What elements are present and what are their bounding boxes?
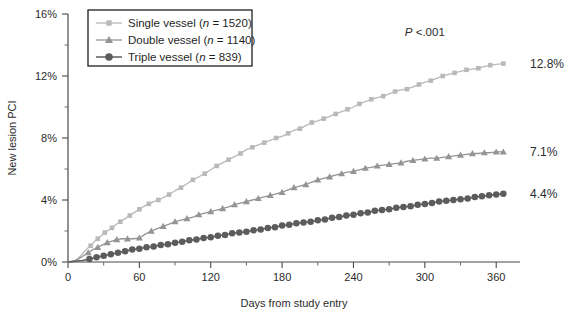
data-point-marker bbox=[88, 243, 93, 248]
data-point-marker bbox=[214, 164, 219, 169]
x-tick-label: 0 bbox=[65, 271, 71, 283]
data-point-marker bbox=[238, 151, 243, 156]
series-line bbox=[68, 152, 503, 262]
data-point-marker bbox=[381, 94, 386, 99]
y-axis-title: New lesion PCI bbox=[6, 100, 18, 175]
data-point-marker bbox=[118, 219, 123, 224]
data-point-marker bbox=[343, 212, 350, 219]
endpoint-label-triple-vessel: 4.4% bbox=[530, 187, 558, 201]
chart-canvas: 0601201802403003600%4%8%12%16%Days from … bbox=[0, 0, 570, 314]
chart-figure: 0601201802403003600%4%8%12%16%Days from … bbox=[0, 0, 570, 314]
data-point-marker bbox=[122, 248, 128, 255]
series-triple-vessel bbox=[68, 191, 507, 263]
data-point-marker bbox=[136, 246, 143, 253]
legend-label-main: Triple vessel ( bbox=[128, 51, 199, 63]
data-point-marker bbox=[150, 243, 157, 250]
data-point-marker bbox=[243, 229, 250, 236]
y-tick-label: 12% bbox=[35, 70, 57, 82]
data-point-marker bbox=[428, 78, 433, 83]
data-point-marker bbox=[310, 120, 315, 125]
data-point-marker bbox=[357, 102, 362, 107]
data-point-marker bbox=[129, 246, 136, 253]
endpoint-label-single-vessel: 12.8% bbox=[530, 57, 564, 71]
data-point-marker bbox=[293, 220, 300, 227]
data-point-marker bbox=[147, 202, 152, 207]
data-point-marker bbox=[379, 207, 386, 214]
data-point-marker bbox=[215, 232, 222, 239]
series-single-vessel bbox=[68, 61, 506, 262]
data-point-marker bbox=[191, 178, 196, 183]
x-axis-title: Days from study entry bbox=[241, 297, 348, 309]
data-point-marker bbox=[350, 211, 357, 218]
data-point-marker bbox=[298, 126, 303, 131]
legend-label: Double vessel (n = 1140) bbox=[128, 34, 256, 46]
data-point-marker bbox=[202, 171, 207, 176]
data-point-marker bbox=[369, 97, 374, 102]
data-point-marker bbox=[488, 63, 493, 68]
legend-label-main: Single vessel ( bbox=[128, 17, 203, 29]
data-point-marker bbox=[93, 254, 100, 261]
data-point-marker bbox=[405, 87, 410, 92]
data-point-marker bbox=[329, 215, 336, 222]
data-point-marker bbox=[322, 216, 329, 223]
data-point-marker bbox=[226, 157, 231, 162]
data-point-marker bbox=[136, 234, 143, 240]
data-point-marker bbox=[333, 112, 338, 117]
data-point-marker bbox=[452, 71, 457, 76]
x-tick-label: 120 bbox=[202, 271, 220, 283]
x-tick-label: 180 bbox=[273, 271, 291, 283]
legend-label-count: = 1140) bbox=[214, 34, 256, 46]
data-point-marker bbox=[167, 192, 172, 197]
data-point-marker bbox=[501, 61, 506, 66]
data-point-marker bbox=[372, 208, 379, 215]
data-point-marker bbox=[443, 198, 450, 205]
x-tick-label: 300 bbox=[416, 271, 434, 283]
data-point-marker bbox=[272, 224, 279, 231]
data-point-marker bbox=[186, 237, 193, 244]
data-point-marker bbox=[307, 218, 314, 225]
data-point-marker bbox=[345, 107, 350, 112]
data-point-marker bbox=[436, 198, 443, 205]
data-point-marker bbox=[128, 213, 133, 218]
legend-label-count: = 839) bbox=[206, 51, 242, 63]
y-tick-label: 0% bbox=[41, 256, 57, 268]
data-point-marker bbox=[315, 217, 322, 224]
data-point-marker bbox=[493, 191, 500, 198]
data-point-marker bbox=[106, 20, 111, 25]
data-point-marker bbox=[357, 210, 364, 217]
data-point-marker bbox=[222, 232, 229, 239]
data-point-marker bbox=[464, 68, 469, 73]
data-point-marker bbox=[105, 53, 113, 61]
data-point-marker bbox=[500, 191, 507, 198]
data-point-marker bbox=[429, 200, 436, 207]
data-point-marker bbox=[407, 203, 414, 210]
p-value-number: <.001 bbox=[413, 26, 445, 38]
data-point-marker bbox=[279, 222, 286, 229]
y-tick-label: 8% bbox=[41, 132, 57, 144]
data-point-marker bbox=[414, 201, 421, 208]
data-point-marker bbox=[236, 229, 243, 236]
data-point-marker bbox=[207, 234, 214, 241]
data-point-marker bbox=[193, 236, 200, 243]
data-point-marker bbox=[156, 198, 161, 203]
data-point-marker bbox=[393, 205, 400, 212]
data-point-marker bbox=[450, 197, 457, 204]
legend: Single vessel (n = 1520)Double vessel (n… bbox=[88, 10, 256, 66]
axes: 0601201802403003600%4%8%12%16%Days from … bbox=[6, 8, 520, 309]
legend-label: Triple vessel (n = 839) bbox=[128, 51, 242, 63]
data-point-marker bbox=[137, 207, 142, 212]
data-point-marker bbox=[179, 239, 186, 246]
data-point-marker bbox=[464, 195, 471, 202]
data-point-marker bbox=[86, 256, 93, 263]
endpoint-label-double-vessel: 7.1% bbox=[530, 145, 558, 159]
series-double-vessel bbox=[68, 148, 507, 262]
data-point-marker bbox=[265, 225, 272, 232]
data-point-marker bbox=[262, 140, 267, 145]
legend-label-main: Double vessel ( bbox=[128, 34, 207, 46]
data-point-marker bbox=[115, 249, 122, 256]
data-point-marker bbox=[179, 185, 184, 190]
data-point-marker bbox=[422, 201, 429, 208]
data-point-marker bbox=[229, 230, 236, 237]
legend-label: Single vessel (n = 1520) bbox=[128, 17, 252, 29]
data-point-marker bbox=[165, 241, 172, 248]
